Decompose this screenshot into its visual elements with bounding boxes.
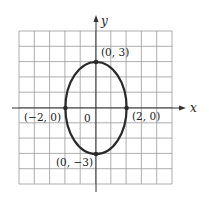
ellipse-diagram: x y (0, 3) (−2, 0) (2, 0) (0, −3) 0 xyxy=(0,0,209,202)
point-0-3 xyxy=(94,60,99,65)
label-0-neg3: (0, −3) xyxy=(56,156,93,168)
y-axis-label: y xyxy=(100,14,108,28)
label-2-0: (2, 0) xyxy=(132,110,160,122)
point-2-0 xyxy=(124,106,129,111)
y-axis: y xyxy=(94,14,109,192)
point-neg2-0 xyxy=(63,106,68,111)
point-0-neg3 xyxy=(94,152,99,157)
label-0-3: (0, 3) xyxy=(101,46,129,58)
origin-label: 0 xyxy=(84,112,91,124)
label-neg2-0: (−2, 0) xyxy=(24,111,61,123)
x-axis-label: x xyxy=(190,101,197,115)
